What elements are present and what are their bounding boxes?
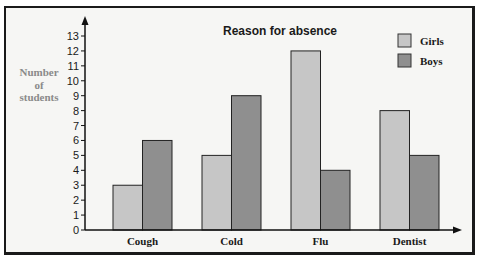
x-axis-arrow-icon: [453, 227, 462, 234]
y-axis-label-line: Number: [19, 66, 58, 78]
y-tick-label: 12: [67, 45, 79, 57]
chart-title: Reason for absence: [223, 24, 337, 38]
bar-dentist-girls: [380, 111, 410, 230]
y-tick-label: 4: [73, 164, 79, 176]
y-tick-label: 0: [73, 224, 79, 236]
y-axis-label-line: of: [34, 79, 44, 91]
bar-flu-boys: [321, 170, 351, 230]
legend-swatch-boys: [398, 54, 411, 67]
y-tick-label: 7: [73, 120, 79, 132]
x-tick-label: Cold: [220, 235, 243, 247]
y-tick-label: 10: [67, 75, 79, 87]
x-tick-label: Cough: [127, 235, 158, 247]
y-tick-label: 1: [73, 209, 79, 221]
x-tick-label: Dentist: [393, 235, 427, 247]
y-tick-label: 6: [73, 134, 79, 146]
legend-swatch-girls: [398, 34, 411, 47]
legend-label-girls: Girls: [420, 35, 445, 47]
bar-cough-girls: [113, 185, 143, 230]
bar-cold-boys: [232, 96, 262, 230]
bar-cold-girls: [202, 155, 232, 230]
bar-chart: CoughColdFluDentist 012345678910111213 R…: [0, 0, 486, 262]
y-tick-label: 2: [73, 194, 79, 206]
y-tick-label: 5: [73, 149, 79, 161]
y-axis-arrow-icon: [82, 16, 89, 25]
legend: GirlsBoys: [398, 34, 445, 67]
bar-flu-girls: [291, 51, 321, 230]
y-tick-label: 11: [68, 60, 79, 72]
y-axis-label-line: students: [19, 91, 59, 103]
bars-group: CoughColdFluDentist: [113, 51, 439, 247]
y-axis-label: Numberofstudents: [19, 66, 59, 103]
x-tick-label: Flu: [313, 235, 329, 247]
y-tick-label: 9: [73, 90, 79, 102]
y-tick-label: 13: [67, 30, 79, 42]
bar-cough-boys: [143, 140, 173, 230]
y-tick-label: 8: [73, 105, 79, 117]
legend-label-boys: Boys: [420, 55, 443, 67]
bar-dentist-boys: [410, 155, 440, 230]
y-tick-label: 3: [73, 179, 79, 191]
